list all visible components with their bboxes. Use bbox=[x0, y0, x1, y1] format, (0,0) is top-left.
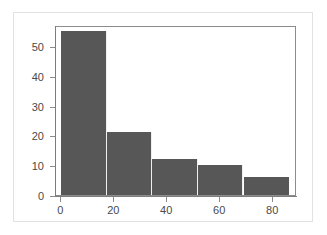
y-tick-mark bbox=[50, 166, 55, 167]
y-tick-label: 20 bbox=[14, 131, 44, 142]
bar bbox=[107, 132, 153, 195]
y-tick-label: 10 bbox=[14, 161, 44, 172]
x-tick-mark bbox=[272, 197, 273, 202]
y-tick-label: 30 bbox=[14, 102, 44, 113]
bar-series bbox=[56, 27, 295, 195]
bar bbox=[198, 165, 244, 195]
x-tick-label: 40 bbox=[151, 204, 181, 216]
x-tick-label: 60 bbox=[204, 204, 234, 216]
y-tick-mark bbox=[50, 196, 55, 197]
x-tick-mark bbox=[219, 197, 220, 202]
y-tick-label: 40 bbox=[14, 72, 44, 83]
y-tick-mark bbox=[50, 47, 55, 48]
x-axis-line bbox=[55, 196, 297, 197]
bar bbox=[152, 159, 198, 195]
x-tick-mark bbox=[166, 197, 167, 202]
y-tick-label: 50 bbox=[14, 42, 44, 53]
bar bbox=[61, 31, 107, 195]
y-tick-label: 0 bbox=[14, 191, 44, 202]
bar bbox=[244, 177, 290, 195]
x-tick-label: 0 bbox=[45, 204, 75, 216]
x-tick-label: 20 bbox=[98, 204, 128, 216]
y-axis-line bbox=[55, 26, 56, 197]
x-tick-mark bbox=[60, 197, 61, 202]
x-tick-label: 80 bbox=[257, 204, 287, 216]
plot-area bbox=[55, 26, 296, 196]
x-tick-mark bbox=[113, 197, 114, 202]
y-tick-mark bbox=[50, 107, 55, 108]
histogram-figure: 01020304050 020406080 bbox=[0, 0, 327, 235]
y-tick-mark bbox=[50, 136, 55, 137]
y-tick-mark bbox=[50, 77, 55, 78]
